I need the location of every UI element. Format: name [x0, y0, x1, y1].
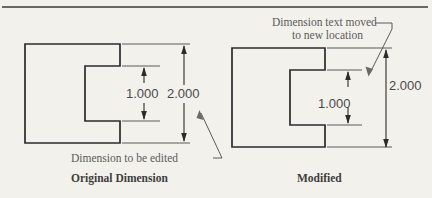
dim-value-2000-original: 2.000 [167, 86, 200, 101]
dim-value-1000-original: 1.000 [126, 86, 159, 101]
figure-root: 1.000 2.000 Dimension to be edited Origi… [0, 0, 432, 198]
note-text-moved-line2: to new location [292, 29, 363, 41]
dim-value-2000-modified: 2.000 [389, 78, 422, 93]
dim-value-1000-modified: 1.000 [318, 96, 351, 111]
caption-modified: Modified [297, 172, 342, 184]
note-dimension-to-be-edited: Dimension to be edited [71, 152, 178, 164]
note-text-moved-line1: Dimension text moved [272, 16, 377, 28]
figure-background [0, 0, 432, 198]
technical-drawing-canvas: 1.000 2.000 Dimension to be edited Origi… [0, 0, 432, 198]
caption-original-dimension: Original Dimension [71, 172, 168, 185]
